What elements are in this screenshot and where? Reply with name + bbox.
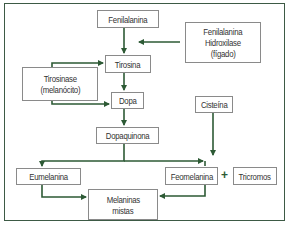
node-melaninas-mistas: Melaninas mistas xyxy=(88,189,158,220)
node-eumelanina: Eumelanina xyxy=(16,168,81,185)
node-dopaquinona: Dopaquinona xyxy=(96,127,159,144)
arrow-feomelanina-mistas xyxy=(160,185,205,196)
node-tricromos: Tricromos xyxy=(233,167,277,185)
node-feomelanina: Feomelanina xyxy=(165,167,218,185)
node-fenilalanina-hidroxilase: Fenilalanina Hidroxilase (fígado) xyxy=(185,22,261,63)
arrow-eumelanina-mistas xyxy=(42,185,86,197)
arrow-dopaquinona-split xyxy=(42,144,124,166)
node-fenilalanina: Fenilalanina xyxy=(97,10,159,28)
plus-sign: + xyxy=(221,168,228,182)
node-tirosinase: Tirosinase (melanócito) xyxy=(22,67,98,101)
node-dopa: Dopa xyxy=(111,92,144,109)
node-tirosina: Tirosina xyxy=(105,55,151,73)
node-cisteina: Cisteína xyxy=(195,96,233,113)
